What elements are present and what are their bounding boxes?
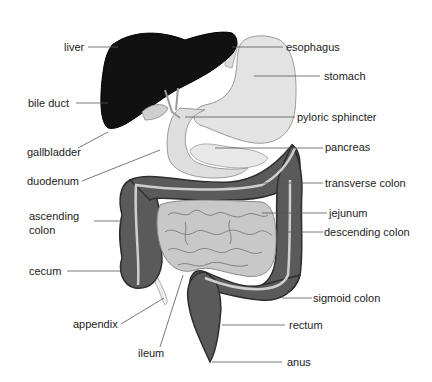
small-intestine-shape [157,200,276,276]
label-ascending-colon-line2: colon [29,224,55,236]
label-bile-duct: bile duct [28,97,69,109]
label-ascending-colon-line1: ascending [29,210,79,222]
label-jejunum: jejunum [329,207,368,219]
label-liver: liver [64,41,84,53]
label-gallbladder: gallbladder [27,146,81,158]
appendix-shape [155,278,167,305]
label-transverse-colon: transverse colon [325,177,406,189]
label-ileum: ileum [138,347,164,359]
label-pancreas: pancreas [325,141,370,153]
leader-appendix [121,298,164,324]
label-descending-colon: descending colon [324,226,410,238]
label-stomach: stomach [324,70,366,82]
label-duodenum: duodenum [27,175,79,187]
label-esophagus: esophagus [286,41,340,53]
label-appendix: appendix [73,318,118,330]
label-pyloric-sphincter: pyloric sphincter [297,111,376,123]
digestive-system-diagram [0,0,432,382]
label-rectum: rectum [289,319,323,331]
label-sigmoid-colon: sigmoid colon [313,292,380,304]
label-anus: anus [287,356,311,368]
leader-gallbladder [78,132,108,148]
leader-ileum [160,275,183,347]
rectum-shape [188,272,221,362]
label-cecum: cecum [29,265,61,277]
